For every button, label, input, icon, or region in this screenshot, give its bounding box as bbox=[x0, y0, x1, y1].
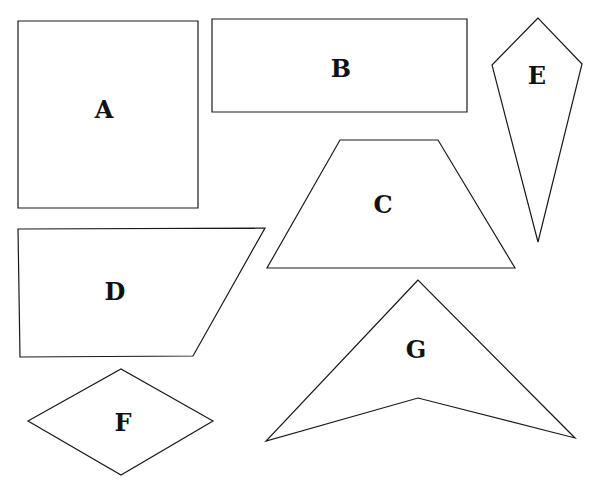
shape-d-outline bbox=[18, 228, 265, 357]
shape-f-label: F bbox=[114, 408, 131, 437]
shape-d-label: D bbox=[105, 277, 126, 306]
shape-b: B bbox=[212, 19, 467, 112]
shape-a-label: A bbox=[94, 95, 114, 124]
shape-c: C bbox=[267, 140, 515, 268]
shapes-canvas: A B C D E F G bbox=[0, 0, 596, 487]
shape-b-label: B bbox=[331, 54, 351, 83]
shape-a: A bbox=[18, 21, 198, 208]
shape-d: D bbox=[18, 228, 265, 357]
shape-c-label: C bbox=[373, 190, 392, 219]
shape-e-outline bbox=[492, 18, 582, 242]
shape-e-label: E bbox=[528, 61, 546, 90]
shape-g-label: G bbox=[406, 335, 427, 364]
shape-e: E bbox=[492, 18, 582, 242]
shape-f: F bbox=[28, 369, 213, 475]
shape-g: G bbox=[266, 280, 575, 441]
